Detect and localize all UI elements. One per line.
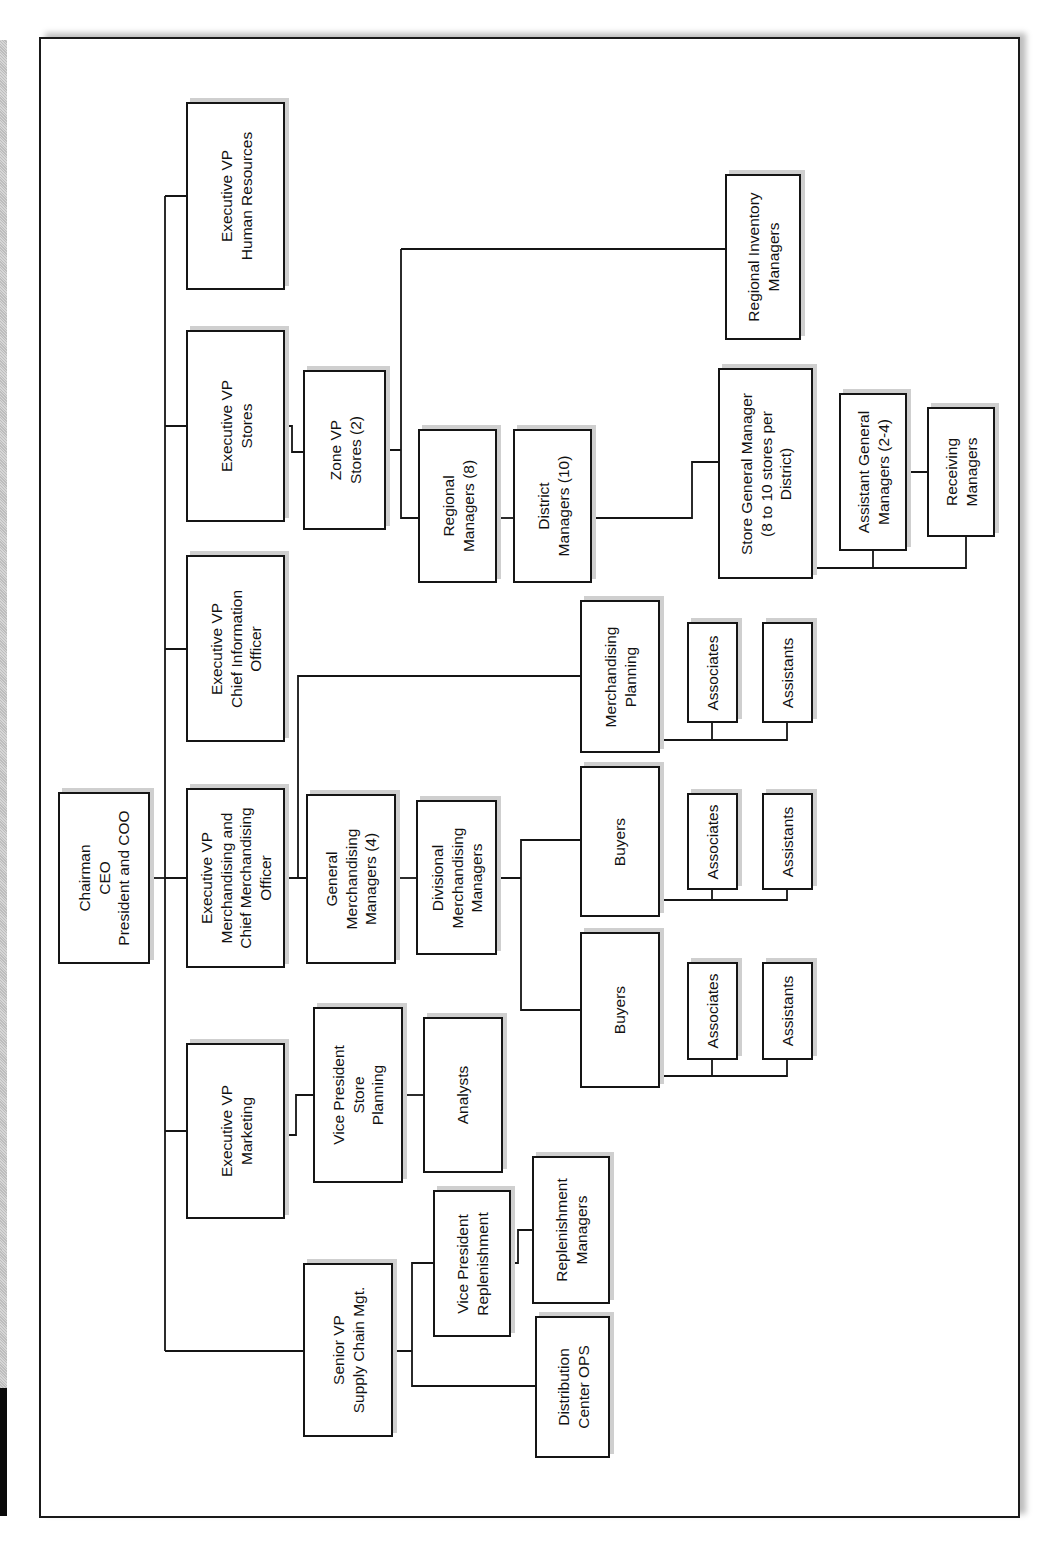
org-node-label: Chairman CEO President and COO bbox=[75, 810, 134, 945]
org-node-label: Senior VP Supply Chain Mgt. bbox=[329, 1287, 368, 1414]
stores-zone-connector bbox=[285, 426, 303, 452]
org-node-vp-replenishment: Vice President Replenishment bbox=[433, 1190, 511, 1337]
org-node-store-gm: Store General Manager (8 to 10 stores pe… bbox=[718, 368, 813, 579]
org-node-receiving-mgrs: Receiving Managers bbox=[927, 407, 995, 537]
org-node-mp-associates: Associates bbox=[687, 622, 738, 723]
org-node-vp-store-planning: Vice President Store Planning bbox=[313, 1007, 403, 1183]
org-node-label: Associates bbox=[703, 804, 723, 879]
org-node-label: Executive VP Stores bbox=[216, 380, 255, 472]
org-node-evp-cio: Executive VP Chief Information Officer bbox=[186, 555, 285, 742]
org-node-label: Assistant General Managers (2-4) bbox=[854, 411, 893, 533]
org-node-label: Zone VP Stores (2) bbox=[325, 416, 364, 484]
buyers2-subconnector bbox=[660, 1060, 787, 1076]
org-node-label: Buyers bbox=[610, 986, 630, 1034]
org-node-regional-inv: Regional Inventory Managers bbox=[725, 174, 801, 340]
org-node-replenishment-mgrs: Replenishment Managers bbox=[532, 1156, 610, 1304]
district-sgm-connector bbox=[592, 462, 718, 518]
org-node-label: Executive VP Merchandising and Chief Mer… bbox=[197, 807, 275, 948]
org-node-label: Buyers bbox=[610, 817, 630, 865]
org-node-label: Regional Inventory Managers bbox=[744, 192, 783, 321]
org-node-label: General Merchandising Managers (4) bbox=[322, 829, 381, 930]
dmm-buyers-connector bbox=[497, 840, 580, 1010]
org-node-evp-merch: Executive VP Merchandising and Chief Mer… bbox=[186, 788, 285, 968]
org-node-label: Assistants bbox=[778, 637, 798, 708]
org-node-label: Receiving Managers bbox=[942, 438, 981, 507]
connector-lines bbox=[0, 0, 1052, 1552]
org-node-label: Divisional Merchandising Managers bbox=[427, 827, 486, 928]
org-node-label: Analysts bbox=[453, 1066, 473, 1125]
org-node-asst-gm: Assistant General Managers (2-4) bbox=[839, 393, 907, 551]
org-node-label: Executive VP Human Resources bbox=[216, 132, 255, 260]
org-node-b2-assistants: Assistants bbox=[762, 962, 813, 1060]
org-node-label: Distribution Center OPS bbox=[553, 1345, 592, 1429]
org-node-mp-assistants: Assistants bbox=[762, 622, 813, 723]
org-node-label: Associates bbox=[703, 635, 723, 710]
org-node-label: Vice President Replenishment bbox=[453, 1212, 492, 1315]
org-node-label: Executive VP Chief Information Officer bbox=[206, 589, 265, 707]
org-node-gmm: General Merchandising Managers (4) bbox=[306, 794, 396, 964]
org-node-label: Regional Managers (8) bbox=[438, 460, 477, 552]
org-node-evp-mkt: Executive VP Marketing bbox=[186, 1043, 285, 1219]
mp-subconnector bbox=[660, 723, 787, 740]
org-node-district-mgrs: District Managers (10) bbox=[513, 429, 592, 583]
org-node-b1-associates: Associates bbox=[687, 793, 738, 890]
org-node-label: Merchandising Planning bbox=[601, 626, 640, 727]
org-node-buyers-2: Buyers bbox=[580, 932, 660, 1088]
org-node-dmm: Divisional Merchandising Managers bbox=[416, 800, 497, 955]
org-node-b1-assistants: Assistants bbox=[762, 793, 813, 890]
org-node-zone-vp: Zone VP Stores (2) bbox=[303, 370, 386, 530]
org-node-evp-stores: Executive VP Stores bbox=[186, 330, 285, 522]
org-node-label: Executive VP Marketing bbox=[216, 1085, 255, 1177]
org-node-label: Associates bbox=[703, 974, 723, 1049]
org-node-buyers-1: Buyers bbox=[580, 766, 660, 917]
org-node-regional-mgrs: Regional Managers (8) bbox=[418, 429, 497, 583]
org-node-dc-ops: Distribution Center OPS bbox=[535, 1316, 610, 1458]
replenishment-connector bbox=[511, 1230, 532, 1263]
org-node-label: District Managers (10) bbox=[533, 456, 572, 557]
org-node-label: Store General Manager (8 to 10 stores pe… bbox=[736, 393, 795, 555]
mkt-vpsp-connector bbox=[285, 1095, 313, 1135]
org-node-label: Vice President Store Planning bbox=[329, 1045, 388, 1145]
org-node-merch-planning: Merchandising Planning bbox=[580, 600, 660, 753]
org-node-label: Assistants bbox=[778, 806, 798, 877]
org-node-evp-hr: Executive VP Human Resources bbox=[186, 102, 285, 290]
buyers1-subconnector bbox=[660, 890, 787, 900]
org-node-svp-supply: Senior VP Supply Chain Mgt. bbox=[303, 1263, 393, 1437]
org-node-label: Replenishment Managers bbox=[552, 1178, 591, 1281]
org-node-ceo: Chairman CEO President and COO bbox=[58, 792, 150, 964]
org-node-label: Assistants bbox=[778, 976, 798, 1047]
org-node-analysts: Analysts bbox=[423, 1017, 503, 1173]
org-node-b2-associates: Associates bbox=[687, 962, 738, 1060]
